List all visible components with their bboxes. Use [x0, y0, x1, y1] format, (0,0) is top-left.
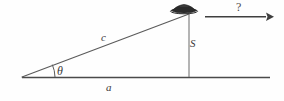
label-hypotenuse-c: c — [101, 32, 106, 43]
angle-arc-icon — [52, 65, 55, 77]
label-vertical-s: S — [190, 38, 196, 49]
diagram-canvas: c a S θ ? — [0, 0, 284, 101]
diagram-svg — [0, 0, 284, 101]
label-angle-theta: θ — [57, 65, 63, 77]
label-base-a: a — [106, 82, 112, 93]
right-arrow-icon — [266, 13, 274, 21]
hypotenuse-segment — [22, 14, 189, 77]
label-unknown-velocity: ? — [236, 1, 241, 13]
